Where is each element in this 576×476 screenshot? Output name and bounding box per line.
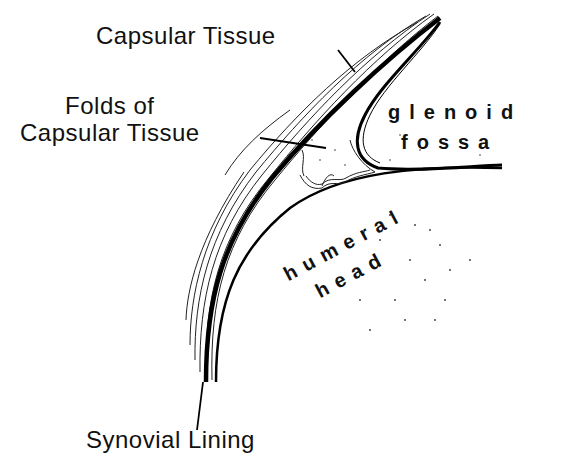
- label-folds-line2: Capsular Tissue: [20, 119, 200, 146]
- label-folds-of-capsular-tissue: Folds of Capsular Tissue: [20, 92, 200, 146]
- label-glenoid-line2: fossa: [388, 127, 522, 157]
- shoulder-joint-drawing: [0, 0, 576, 476]
- label-folds-line1: Folds of: [20, 92, 200, 119]
- label-capsular-tissue: Capsular Tissue: [96, 24, 276, 48]
- label-synovial-lining: Synovial Lining: [86, 428, 255, 452]
- synovial-lining-line: [206, 18, 502, 382]
- label-glenoid-line1: glenoid: [388, 97, 522, 127]
- leader-synovial: [197, 382, 203, 430]
- leader-capsular-tissue: [338, 50, 355, 72]
- label-glenoid-fossa: glenoid fossa: [388, 97, 522, 157]
